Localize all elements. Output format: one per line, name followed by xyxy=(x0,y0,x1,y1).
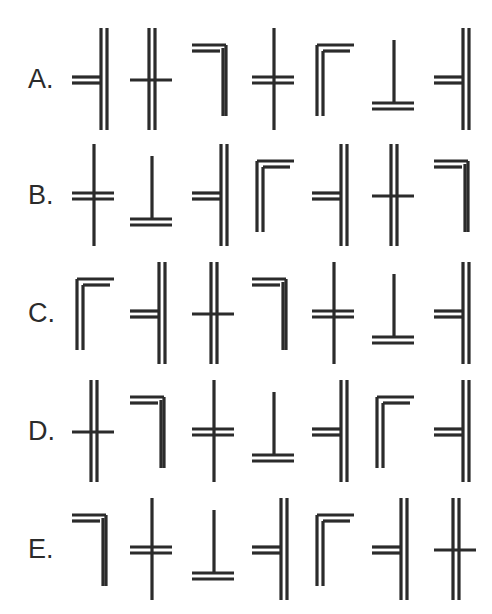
row-label-c: C. xyxy=(28,300,55,327)
glyph-row-c: C. xyxy=(0,258,492,368)
row-label-a: A. xyxy=(28,66,54,93)
corner-tr-icon xyxy=(70,494,116,604)
cross-dv-sh-icon xyxy=(70,376,116,486)
glyph-sequence xyxy=(70,376,492,486)
row-label-e: E. xyxy=(28,536,54,563)
tee-left-dv-icon xyxy=(432,24,478,134)
cross-dv-sh-icon xyxy=(128,24,174,134)
tee-left-dv-icon xyxy=(128,258,174,368)
corner-tr-icon xyxy=(128,376,174,486)
cross-sv-dh-icon xyxy=(128,494,174,604)
glyph-row-d: D. xyxy=(0,376,492,486)
glyph-sequence xyxy=(70,258,492,368)
glyph-sequence xyxy=(70,494,492,604)
tee-up-dh-icon xyxy=(250,376,296,486)
cross-sv-dh-icon xyxy=(250,24,296,134)
corner-tl-icon xyxy=(310,494,356,604)
tee-up-dh-icon xyxy=(370,258,416,368)
tee-left-dv-icon xyxy=(432,258,478,368)
corner-tl-icon xyxy=(370,376,416,486)
corner-tr-icon xyxy=(250,258,296,368)
row-label-d: D. xyxy=(28,418,55,445)
corner-tl-icon xyxy=(310,24,356,134)
corner-tr-icon xyxy=(432,140,478,250)
tee-left-dv-icon xyxy=(432,376,478,486)
tee-left-dv-icon xyxy=(250,494,296,604)
corner-tl-icon xyxy=(70,258,116,368)
row-label-b: B. xyxy=(28,182,54,209)
glyph-row-a: A. xyxy=(0,24,492,134)
glyph-row-e: E. xyxy=(0,494,492,604)
glyph-row-b: B. xyxy=(0,140,492,250)
glyph-sequence xyxy=(70,140,492,250)
glyph-sequence xyxy=(70,24,492,134)
tee-left-dv-icon xyxy=(70,24,116,134)
tee-up-dh-icon xyxy=(370,24,416,134)
puzzle-sheet: A.B.C.D.E. xyxy=(0,0,492,614)
cross-dv-sh-icon xyxy=(190,258,236,368)
tee-left-dv-icon xyxy=(310,376,356,486)
tee-up-dh-icon xyxy=(128,140,174,250)
cross-dv-sh-icon xyxy=(370,140,416,250)
tee-up-dh-icon xyxy=(190,494,236,604)
cross-dv-sh-icon xyxy=(432,494,478,604)
corner-tr-icon xyxy=(190,24,236,134)
cross-sv-dh-icon xyxy=(70,140,116,250)
tee-left-dv-icon xyxy=(370,494,416,604)
cross-sv-dh-icon xyxy=(310,258,356,368)
tee-left-dv-icon xyxy=(190,140,236,250)
cross-sv-dh-icon xyxy=(190,376,236,486)
tee-left-dv-icon xyxy=(310,140,356,250)
corner-tl-icon xyxy=(250,140,296,250)
